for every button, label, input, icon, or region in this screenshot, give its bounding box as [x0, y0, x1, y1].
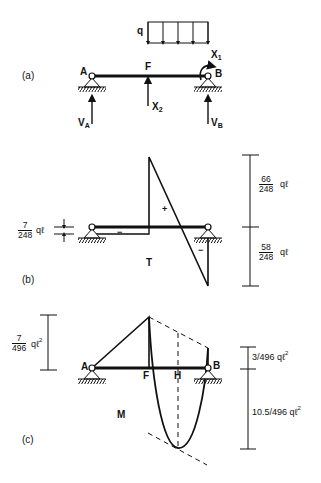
bottom-dim-fraction: 58248 — [259, 243, 273, 262]
panel-a-beam-scheme — [78, 22, 222, 124]
left-dimension-marker — [54, 219, 74, 242]
top-dim-suffix: qℓ — [280, 179, 288, 189]
panel-b-tag: (b) — [22, 275, 34, 285]
left-dim-suffix: qℓ — [36, 225, 44, 235]
distributed-load-icon — [148, 22, 208, 43]
shear-diagram-label: T — [146, 258, 152, 268]
point-a-label: A — [80, 67, 87, 77]
force-x2-label: X2 — [152, 102, 163, 115]
negative-sign-right: − — [198, 245, 203, 255]
left-dim-suffix: qℓ2 — [31, 337, 42, 349]
point-b-label: B — [213, 361, 220, 371]
point-h-label: H — [174, 371, 181, 381]
point-a-label: A — [81, 362, 88, 372]
right-dimension-line — [242, 155, 259, 286]
panel-c-tag: (c) — [22, 435, 34, 445]
top-dim-label: 3/496 qℓ2 — [252, 350, 288, 362]
bottom-dim-label: 10.5/496 qℓ2 — [252, 405, 301, 417]
moment-diagram-label: M — [117, 410, 125, 420]
moment-x1-label: X1 — [211, 50, 222, 63]
load-q-label: q — [137, 26, 143, 36]
point-f-label: F — [145, 62, 151, 72]
reaction-va-label: VA — [78, 118, 90, 131]
panel-c-moment-diagram — [40, 315, 256, 465]
positive-sign: + — [162, 204, 167, 214]
reaction-vb-label: VB — [211, 118, 223, 131]
right-dimension-line — [240, 347, 256, 449]
top-dim-fraction: 66248 — [259, 175, 273, 194]
panel-b-shear-diagram — [54, 155, 259, 286]
panel-a-tag: (a) — [22, 71, 34, 81]
bottom-dim-suffix: qℓ — [280, 247, 288, 257]
negative-sign-left: − — [117, 227, 122, 237]
point-b-label: B — [215, 69, 222, 79]
left-dim-fraction: 7248 — [18, 221, 32, 240]
left-dimension-line — [40, 315, 57, 370]
left-dim-fraction: 7496 — [12, 334, 26, 353]
point-f-label: F — [143, 371, 149, 381]
